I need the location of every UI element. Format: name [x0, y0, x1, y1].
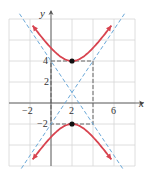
hyperbola-chart: y x −2 2 6 4 2 −2 [0, 0, 149, 181]
tick-x-2: 2 [69, 105, 74, 116]
x-axis-label: x [138, 97, 144, 109]
tick-x-neg2: −2 [22, 105, 33, 116]
axes [9, 10, 144, 166]
tick-x-6: 6 [111, 105, 116, 116]
y-axis-label: y [39, 7, 45, 19]
tick-y-2: 2 [44, 76, 49, 87]
tick-y-4: 4 [43, 55, 48, 66]
tick-y-neg2: −2 [37, 118, 48, 129]
